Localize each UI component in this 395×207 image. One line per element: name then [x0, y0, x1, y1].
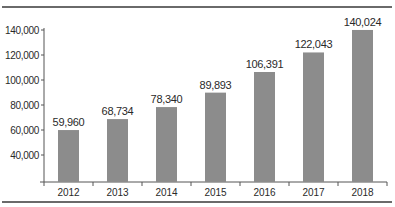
x-tick-label: 2015 [204, 187, 227, 198]
value-label: 78,340 [151, 93, 183, 105]
x-tick-label: 2016 [253, 187, 276, 198]
value-label: 68,734 [102, 105, 134, 117]
y-axis: 40,00060,00080,000100,000120,000140,000 [5, 25, 44, 183]
bars: 59,96068,73478,34089,893106,391122,04314… [53, 16, 382, 182]
value-label: 59,960 [53, 116, 85, 128]
x-tick-label: 2018 [351, 187, 374, 198]
bar-2017 [303, 52, 324, 182]
bar-2012 [58, 130, 79, 182]
y-tick-label: 40,000 [10, 150, 40, 161]
y-tick-label: 120,000 [5, 50, 40, 61]
bar-2016 [254, 72, 275, 182]
y-tick-label: 140,000 [5, 25, 40, 36]
x-tick-label: 2014 [155, 187, 178, 198]
value-label: 89,893 [200, 79, 232, 91]
bar-2013 [107, 119, 128, 182]
value-label: 106,391 [246, 58, 284, 70]
y-tick-label: 60,000 [10, 125, 40, 136]
bar-chart: 40,00060,00080,000100,000120,000140,000 … [0, 0, 395, 207]
x-tick-label: 2013 [106, 187, 129, 198]
x-tick-label: 2017 [302, 187, 325, 198]
x-tick-label: 2012 [57, 187, 80, 198]
bar-2018 [352, 30, 373, 182]
y-tick-label: 100,000 [5, 75, 40, 86]
y-tick-label: 80,000 [10, 100, 40, 111]
bar-2015 [205, 93, 226, 182]
value-label: 140,024 [344, 16, 382, 28]
bar-2014 [156, 107, 177, 182]
x-axis: 2012201320142015201620172018 [40, 182, 387, 198]
value-label: 122,043 [295, 38, 333, 50]
